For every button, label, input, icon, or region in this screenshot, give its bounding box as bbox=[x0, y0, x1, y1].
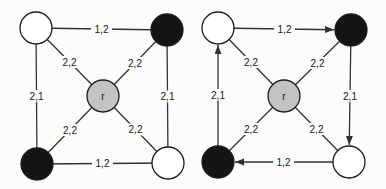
node-bottom-right bbox=[333, 146, 365, 178]
edge-label: 2,2 bbox=[244, 57, 258, 68]
edge-label: 2,1 bbox=[30, 91, 44, 102]
graph-figure: 1,22,12,11,22,22,22,22,2r1,22,11,22,12,2… bbox=[0, 0, 386, 189]
edge-label: 2,1 bbox=[161, 91, 175, 102]
node-bottom-left bbox=[21, 148, 53, 180]
edge-label: 1,2 bbox=[95, 24, 109, 35]
edge-top-right-bottom-right bbox=[349, 30, 351, 145]
edge-label: 2,2 bbox=[244, 124, 258, 135]
node-bottom-right bbox=[152, 147, 184, 179]
edge-label: 2,2 bbox=[129, 124, 143, 135]
node-top-right bbox=[151, 14, 183, 46]
edge-label: 2,2 bbox=[311, 58, 325, 69]
edge-label: 2,1 bbox=[211, 90, 225, 101]
edge-label: 2,2 bbox=[128, 58, 142, 69]
node-top-left bbox=[202, 12, 234, 44]
edge-label: 2,2 bbox=[310, 124, 324, 135]
edge-label: 1,2 bbox=[278, 24, 292, 35]
node-top-right bbox=[335, 14, 367, 46]
directed-graph: 1,22,11,22,12,22,22,22,2r bbox=[202, 12, 367, 178]
edge-label: 2,1 bbox=[343, 91, 357, 102]
edge-label: 2,2 bbox=[63, 57, 77, 68]
edge-label: 1,2 bbox=[277, 157, 291, 168]
edge-label: 1,2 bbox=[96, 158, 110, 169]
node-top-left bbox=[20, 12, 52, 44]
figure-canvas: 1,22,12,11,22,22,22,22,2r1,22,11,22,12,2… bbox=[0, 0, 386, 189]
undirected-graph: 1,22,12,11,22,22,22,22,2r bbox=[20, 12, 184, 180]
edge-label: 2,2 bbox=[63, 125, 77, 136]
node-bottom-left bbox=[202, 146, 234, 178]
